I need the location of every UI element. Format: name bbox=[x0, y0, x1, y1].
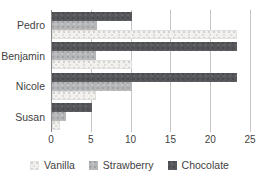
legend-item-strawberry[interactable]: Strawberry bbox=[89, 159, 154, 171]
bar-benjamin-strawberry bbox=[52, 51, 96, 60]
chart-legend: VanillaStrawberryChocolate bbox=[0, 156, 259, 174]
bar-pedro-chocolate bbox=[52, 12, 132, 21]
bar-pedro-strawberry bbox=[52, 21, 97, 30]
gridline-10 bbox=[131, 10, 132, 132]
legend-label-chocolate: Chocolate bbox=[182, 159, 229, 171]
bar-susan-strawberry bbox=[52, 112, 66, 121]
x-tick-label-25: 25 bbox=[244, 134, 255, 145]
legend-swatch-chocolate-icon bbox=[168, 161, 177, 170]
plot-area bbox=[51, 10, 250, 132]
bar-pedro-vanilla bbox=[52, 30, 237, 39]
x-tick-label-15: 15 bbox=[165, 134, 176, 145]
legend-swatch-strawberry-icon bbox=[89, 161, 98, 170]
category-label-susan: Susan bbox=[15, 111, 45, 123]
gridline-25 bbox=[250, 10, 251, 132]
bar-nicole-strawberry bbox=[52, 82, 132, 91]
legend-item-vanilla[interactable]: Vanilla bbox=[30, 159, 75, 171]
x-tick-label-20: 20 bbox=[205, 134, 216, 145]
bar-benjamin-vanilla bbox=[52, 60, 132, 69]
x-tick-label-0: 0 bbox=[48, 134, 54, 145]
gridline-15 bbox=[170, 10, 171, 132]
grouped-bar-chart: PedroBenjaminNicoleSusan 0510152025 Vani… bbox=[0, 0, 259, 178]
legend-label-strawberry: Strawberry bbox=[103, 159, 154, 171]
bar-benjamin-chocolate bbox=[52, 42, 237, 51]
legend-item-chocolate[interactable]: Chocolate bbox=[168, 159, 229, 171]
bar-susan-chocolate bbox=[52, 103, 92, 112]
x-tick-label-10: 10 bbox=[125, 134, 136, 145]
bar-nicole-chocolate bbox=[52, 73, 237, 82]
x-tick-label-5: 5 bbox=[88, 134, 94, 145]
legend-label-vanilla: Vanilla bbox=[44, 159, 75, 171]
category-label-pedro: Pedro bbox=[17, 19, 45, 31]
bar-susan-vanilla bbox=[52, 121, 60, 130]
category-label-benjamin: Benjamin bbox=[1, 50, 45, 62]
bar-nicole-vanilla bbox=[52, 91, 96, 100]
legend-swatch-vanilla-icon bbox=[30, 161, 39, 170]
gridline-20 bbox=[210, 10, 211, 132]
category-label-nicole: Nicole bbox=[16, 80, 45, 92]
